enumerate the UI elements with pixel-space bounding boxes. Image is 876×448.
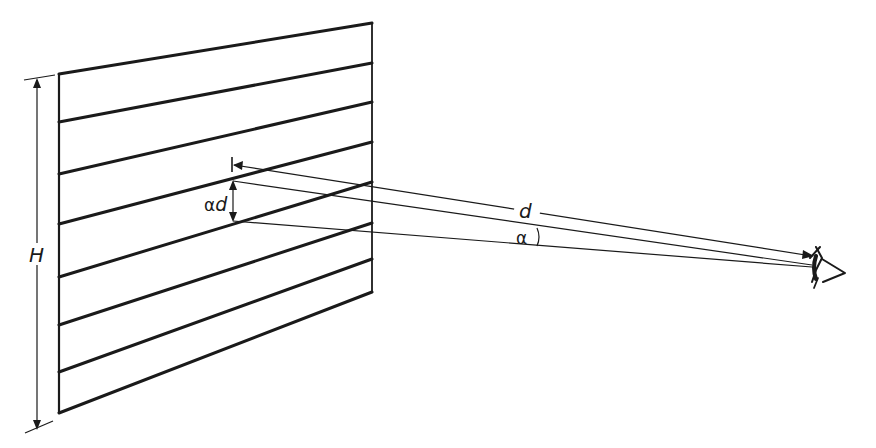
stripe-line [59, 259, 372, 372]
angle-arc [537, 228, 539, 246]
height-tick-top [24, 75, 55, 80]
spacing-label-d: d [215, 193, 228, 215]
striped-panel [59, 23, 372, 413]
stripe-line [59, 23, 372, 74]
eye-icon [810, 247, 845, 288]
distance-label: d [519, 199, 532, 223]
arrowhead-down-icon [229, 212, 237, 222]
angle-label: α [516, 228, 527, 248]
spacing-label-alpha: α [204, 195, 215, 215]
sight-ray-upper [233, 181, 812, 265]
arrowhead-up-icon [33, 78, 41, 88]
spacing-label: αd [204, 193, 228, 215]
height-label: H [29, 243, 44, 267]
spacing-dimension [229, 180, 237, 222]
arrowhead-left-icon [233, 161, 243, 170]
diagram-canvas: H d α αd [0, 0, 876, 448]
